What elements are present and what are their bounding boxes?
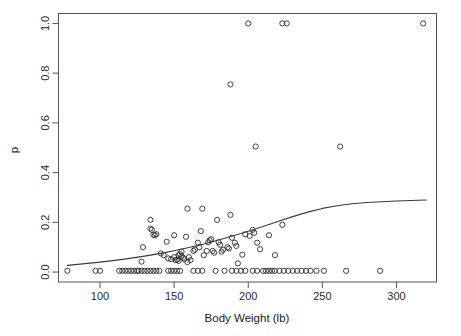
- y-tick-label: 0.8: [39, 66, 51, 81]
- x-tick-label: 300: [387, 290, 405, 302]
- y-tick-label: 0.2: [39, 215, 51, 230]
- x-tick-label: 150: [165, 290, 183, 302]
- y-tick-label: 1.0: [39, 16, 51, 31]
- x-tick-label: 200: [239, 290, 257, 302]
- chart-canvas: 100150200250300 0.00.20.40.60.81.0 Body …: [0, 0, 461, 336]
- y-tick-label: 0.0: [39, 264, 51, 279]
- y-axis-title: p: [8, 147, 20, 153]
- scatter-plot-figure: 100150200250300 0.00.20.40.60.81.0 Body …: [0, 0, 461, 336]
- x-tick-label: 250: [313, 290, 331, 302]
- y-tick-label: 0.6: [39, 115, 51, 130]
- figure-background: [0, 0, 461, 336]
- y-tick-label: 0.4: [39, 165, 51, 180]
- x-tick-label: 100: [91, 290, 109, 302]
- x-axis-title: Body Weight (lb): [205, 312, 290, 324]
